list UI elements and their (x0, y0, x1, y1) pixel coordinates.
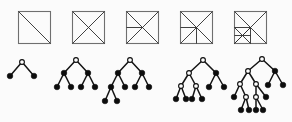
leaf-node (122, 84, 128, 90)
leaf-node (263, 94, 269, 100)
square-5 (235, 12, 267, 44)
leaf-node (221, 84, 227, 90)
internal-node (238, 82, 243, 87)
leaf-node (199, 96, 205, 102)
leaf-node (253, 107, 259, 113)
tree-2 (54, 58, 98, 90)
square-2 (73, 12, 105, 44)
internal-node (115, 70, 121, 76)
internal-node (246, 69, 251, 74)
root-node (20, 60, 25, 65)
root-node (260, 57, 265, 62)
internal-node (194, 84, 199, 89)
leaf-node (231, 94, 237, 100)
leaf-node (132, 84, 138, 90)
leaf-node (92, 84, 98, 90)
tree-5 (231, 57, 286, 113)
square-1 (19, 12, 51, 44)
internal-node (272, 68, 278, 74)
leaf-node (102, 98, 108, 104)
leaf-node (78, 84, 84, 90)
internal-node (254, 82, 259, 87)
tree-1 (7, 60, 37, 79)
leaf-node (189, 96, 195, 102)
internal-node (85, 70, 91, 76)
root-node (128, 58, 133, 63)
leaf-node (280, 82, 286, 88)
leaf-node (54, 84, 60, 90)
figure-container (0, 0, 292, 122)
internal-node (213, 70, 219, 76)
internal-node (61, 70, 67, 76)
squares-row (19, 12, 267, 44)
leaf-node (183, 96, 189, 102)
internal-node (254, 95, 259, 100)
leaf-node (173, 96, 179, 102)
internal-node (179, 84, 184, 89)
leaf-node (114, 98, 120, 104)
internal-node (244, 95, 249, 100)
leaf-node (265, 82, 271, 88)
leaf-node (206, 84, 212, 90)
leaf-node (246, 107, 252, 113)
internal-node (108, 84, 114, 90)
tree-3 (102, 58, 152, 104)
leaf-node (7, 73, 13, 79)
internal-node (187, 71, 192, 76)
internal-node (139, 70, 145, 76)
leaf-node (68, 84, 74, 90)
tree-4 (173, 58, 227, 102)
trees-row (7, 57, 286, 113)
root-node (74, 58, 79, 63)
figure-canvas (0, 0, 292, 122)
leaf-node (260, 107, 266, 113)
leaf-node (146, 84, 152, 90)
root-node (201, 58, 206, 63)
tree-edges (105, 60, 149, 101)
leaf-node (238, 107, 244, 113)
square-4 (181, 12, 213, 44)
subdivision-line-main-diagonal (19, 12, 51, 44)
tree-edges (176, 60, 224, 99)
square-3 (127, 12, 159, 44)
leaf-node (31, 73, 37, 79)
